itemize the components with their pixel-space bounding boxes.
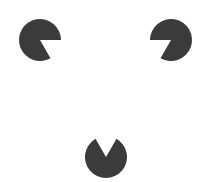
pacman-inducer-top-left (19, 19, 61, 61)
pacman-inducer-bottom (85, 139, 127, 178)
pacman-inducer-top-right (150, 19, 192, 61)
kanizsa-triangle-figure (0, 0, 207, 182)
